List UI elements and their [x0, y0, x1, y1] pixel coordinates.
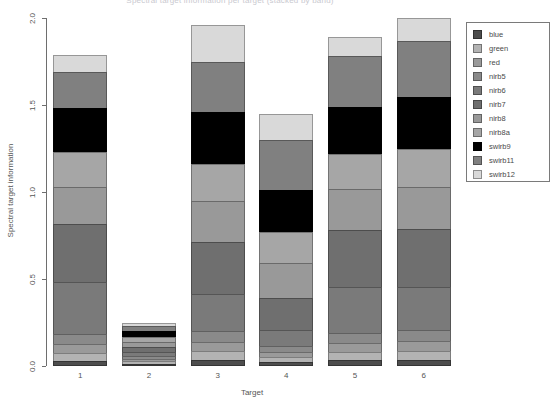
- bar-segment-swirb12[interactable]: [53, 55, 107, 72]
- bar-segment-green[interactable]: [53, 353, 107, 361]
- bar-segment-nirb5[interactable]: [397, 330, 451, 341]
- bar-segment-nirb8[interactable]: [397, 187, 451, 230]
- bar-segment-nirb8a[interactable]: [259, 232, 313, 263]
- bar-segment-swirb11[interactable]: [397, 41, 451, 97]
- legend-item[interactable]: nirb8a: [467, 125, 549, 139]
- legend-label: green: [489, 44, 508, 53]
- y-tick-label: 0.5: [24, 265, 42, 293]
- plot-area: 0.00.51.01.52.0: [46, 18, 458, 366]
- legend-swatch-swirb11: [473, 156, 482, 165]
- legend-item[interactable]: swirb9: [467, 139, 549, 153]
- chart-page: Spectral target information per target (…: [0, 0, 557, 410]
- bar-segment-nirb5[interactable]: [191, 331, 245, 342]
- bar-segment-nirb8a[interactable]: [191, 164, 245, 201]
- y-tick-mark: [42, 366, 46, 367]
- legend-swatch-swirb9: [473, 142, 482, 151]
- bar-segment-green[interactable]: [328, 352, 382, 360]
- bar-segment-nirb8[interactable]: [259, 263, 313, 298]
- y-tick-mark: [42, 105, 46, 106]
- bar-segment-nirb5[interactable]: [328, 333, 382, 343]
- bar-segment-nirb8a[interactable]: [397, 149, 451, 186]
- bar-segment-nirb8[interactable]: [191, 201, 245, 242]
- stacked-bar[interactable]: [328, 37, 382, 366]
- bar-segment-nirb6[interactable]: [328, 287, 382, 332]
- bar-segment-swirb11[interactable]: [328, 56, 382, 106]
- bar-segment-swirb11[interactable]: [191, 62, 245, 112]
- y-tick-label: 1.0: [24, 178, 42, 206]
- bar-segment-red[interactable]: [328, 343, 382, 352]
- stacked-bar[interactable]: [397, 18, 451, 366]
- legend-swatch-green: [473, 44, 482, 53]
- legend-item[interactable]: blue: [467, 27, 549, 41]
- legend-item[interactable]: nirb6: [467, 83, 549, 97]
- bar-segment-nirb8[interactable]: [53, 187, 107, 224]
- bar-segment-red[interactable]: [397, 341, 451, 351]
- stacked-bar[interactable]: [191, 25, 245, 366]
- bar-segment-nirb7[interactable]: [191, 242, 245, 294]
- y-tick-mark: [42, 192, 46, 193]
- legend-item[interactable]: swirb11: [467, 153, 549, 167]
- bar-segment-blue[interactable]: [259, 362, 313, 366]
- legend-item[interactable]: nirb5: [467, 69, 549, 83]
- y-tick-mark: [42, 279, 46, 280]
- bar-segment-nirb8a[interactable]: [328, 154, 382, 189]
- bar-segment-green[interactable]: [191, 351, 245, 359]
- bar-segment-nirb7[interactable]: [397, 229, 451, 286]
- bar-segment-swirb9[interactable]: [191, 112, 245, 164]
- legend-item[interactable]: green: [467, 41, 549, 55]
- legend-item[interactable]: nirb7: [467, 97, 549, 111]
- bar-segment-blue[interactable]: [53, 361, 107, 366]
- bar-segment-blue[interactable]: [191, 360, 245, 366]
- bar-segment-red[interactable]: [53, 344, 107, 353]
- bar-segment-swirb12[interactable]: [259, 114, 313, 140]
- legend-item[interactable]: nirb8: [467, 111, 549, 125]
- bar-segment-swirb11[interactable]: [53, 72, 107, 109]
- bar-segment-swirb9[interactable]: [259, 190, 313, 232]
- y-tick-mark: [42, 18, 46, 19]
- y-axis-label-text: Spectral target information: [7, 143, 16, 237]
- bar-segment-nirb6[interactable]: [397, 287, 451, 331]
- bar-segment-nirb7[interactable]: [259, 298, 313, 329]
- bar-segment-nirb7[interactable]: [53, 224, 107, 281]
- legend-label: red: [489, 58, 500, 67]
- bar-segment-swirb11[interactable]: [259, 140, 313, 190]
- bar-segment-swirb12[interactable]: [191, 25, 245, 62]
- bar-segment-swirb12[interactable]: [328, 37, 382, 56]
- legend: bluegreenrednirb5nirb6nirb7nirb8nirb8asw…: [466, 22, 550, 182]
- legend-item[interactable]: red: [467, 55, 549, 69]
- bar-segment-nirb8a[interactable]: [53, 152, 107, 187]
- legend-label: swirb9: [489, 142, 511, 151]
- legend-label: nirb8a: [489, 128, 510, 137]
- legend-label: swirb12: [489, 170, 515, 179]
- bar-segment-blue[interactable]: [328, 360, 382, 366]
- bar-segment-swirb9[interactable]: [53, 108, 107, 152]
- bar-segment-nirb8[interactable]: [328, 189, 382, 230]
- bar-segment-nirb5[interactable]: [53, 334, 107, 344]
- bar-segment-blue[interactable]: [122, 364, 176, 366]
- chart-title: Spectral target information per target (…: [0, 0, 460, 5]
- x-tick-label: 1: [60, 371, 100, 380]
- bar-segment-blue[interactable]: [397, 360, 451, 366]
- legend-swatch-red: [473, 58, 482, 67]
- bar-segment-nirb6[interactable]: [191, 294, 245, 331]
- legend-swatch-nirb7: [473, 100, 482, 109]
- stacked-bar[interactable]: [259, 114, 313, 366]
- bar-segment-swirb9[interactable]: [397, 97, 451, 149]
- bar-segment-nirb6[interactable]: [53, 282, 107, 334]
- bar-segment-nirb6[interactable]: [259, 330, 313, 347]
- stacked-bar[interactable]: [53, 55, 107, 366]
- bar-segment-nirb7[interactable]: [328, 230, 382, 287]
- legend-item[interactable]: swirb12: [467, 167, 549, 181]
- legend-swatch-nirb8a: [473, 128, 482, 137]
- legend-swatch-nirb6: [473, 86, 482, 95]
- bar-segment-swirb9[interactable]: [328, 107, 382, 155]
- y-tick-label: 2.0: [24, 4, 42, 32]
- x-tick-label: 2: [129, 371, 169, 380]
- bar-segment-red[interactable]: [191, 342, 245, 352]
- legend-swatch-blue: [473, 30, 482, 39]
- legend-label: nirb5: [489, 72, 506, 81]
- stacked-bar[interactable]: [122, 323, 176, 367]
- bar-segment-swirb12[interactable]: [397, 18, 451, 41]
- y-tick-label: 1.5: [24, 91, 42, 119]
- bar-segment-green[interactable]: [397, 351, 451, 360]
